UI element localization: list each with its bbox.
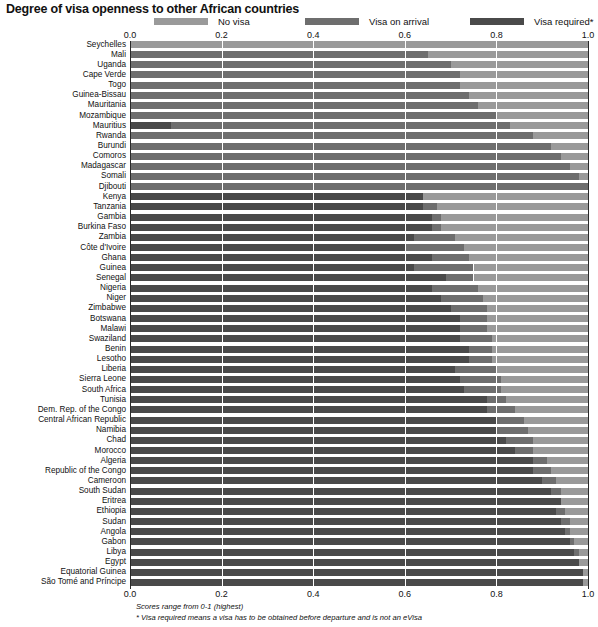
- bar-segment-no-visa: [464, 244, 588, 251]
- bar-segment-visa-required: [130, 559, 579, 566]
- bar-segment-visa-on-arrival: [533, 457, 547, 464]
- gridline-0.8: [496, 41, 497, 589]
- country-label: Togo: [0, 81, 126, 89]
- bar-segment-visa-on-arrival: [487, 406, 514, 413]
- bar-segment-visa-on-arrival: [551, 488, 560, 495]
- country-label: Malawi: [0, 325, 126, 333]
- x-axis-tick-0.6: 0.6: [399, 589, 412, 599]
- bar-segment-no-visa: [551, 467, 588, 474]
- bar-segment-no-visa: [524, 417, 588, 424]
- legend-label-visa-required: Visa required*: [534, 16, 594, 27]
- gridline-0.6: [405, 41, 406, 589]
- bar-segment-no-visa: [547, 457, 588, 464]
- bar-row: [130, 518, 588, 525]
- bar-segment-no-visa: [561, 153, 588, 160]
- bar-row: [130, 457, 588, 464]
- bar-segment-visa-required: [130, 285, 432, 292]
- bar-segment-no-visa: [533, 447, 588, 454]
- country-label: Chad: [0, 436, 126, 444]
- country-label: Republic of the Congo: [0, 467, 126, 475]
- bar-row: [130, 274, 588, 281]
- country-label: Gambia: [0, 213, 126, 221]
- bar-segment-visa-on-arrival: [460, 376, 501, 383]
- bar-row: [130, 305, 588, 312]
- bar-row: [130, 477, 588, 484]
- bar-segment-no-visa: [561, 488, 588, 495]
- country-label: Côte d'Ivoire: [0, 244, 126, 252]
- country-label: Mali: [0, 51, 126, 59]
- bar-row: [130, 173, 588, 180]
- bar-segment-no-visa: [501, 376, 588, 383]
- bar-segment-visa-required: [130, 264, 414, 271]
- bar-segment-visa-on-arrival: [414, 234, 455, 241]
- bar-segment-visa-on-arrival: [556, 508, 565, 515]
- bar-segment-visa-on-arrival: [130, 163, 570, 170]
- bar-row: [130, 447, 588, 454]
- country-label-column: SeychellesMaliUgandaCape VerdeTogoGuinea…: [0, 41, 126, 589]
- bar-segment-visa-required: [130, 386, 464, 393]
- bar-segment-no-visa: [487, 315, 588, 322]
- bar-segment-visa-required: [130, 315, 460, 322]
- bar-segment-no-visa: [478, 102, 588, 109]
- bar-segment-no-visa: [515, 406, 588, 413]
- bar-segment-visa-on-arrival: [441, 295, 482, 302]
- bar-row: [130, 376, 588, 383]
- bar-row: [130, 508, 588, 515]
- bar-segment-visa-on-arrival: [423, 203, 437, 210]
- gridline-0.2: [222, 41, 223, 589]
- bar-segment-no-visa: [579, 173, 588, 180]
- bar-segment-visa-on-arrival: [432, 285, 478, 292]
- x-axis-tick-0.6: 0.6: [399, 30, 412, 40]
- bar-segment-no-visa: [492, 335, 588, 342]
- bar-row: [130, 264, 588, 271]
- x-axis-tick-0.0: 0.0: [124, 30, 137, 40]
- country-label: Djibouti: [0, 183, 126, 191]
- country-label: São Tomé and Príncipe: [0, 578, 126, 586]
- bar-segment-visa-required: [130, 376, 460, 383]
- bar-segment-no-visa: [455, 234, 588, 241]
- bar-segment-visa-required: [130, 406, 487, 413]
- bar-segment-no-visa: [423, 193, 588, 200]
- bar-row: [130, 538, 588, 545]
- bar-row: [130, 122, 588, 129]
- bar-segment-visa-required: [130, 193, 423, 200]
- bar-segment-visa-on-arrival: [561, 518, 570, 525]
- bar-segment-visa-on-arrival: [405, 244, 465, 251]
- bar-row: [130, 71, 588, 78]
- bar-row: [130, 102, 588, 109]
- bar-segment-visa-required: [130, 366, 455, 373]
- bar-segment-no-visa: [510, 122, 588, 129]
- bar-segment-visa-on-arrival: [130, 61, 451, 68]
- x-axis-tick-0.2: 0.2: [215, 30, 228, 40]
- bar-row: [130, 51, 588, 58]
- country-label: Lesotho: [0, 355, 126, 363]
- bar-row: [130, 346, 588, 353]
- bar-segment-visa-required: [130, 569, 583, 576]
- country-label: Egypt: [0, 558, 126, 566]
- legend-swatch-visa-required: [470, 18, 524, 25]
- bar-row: [130, 417, 588, 424]
- bar-segment-no-visa: [483, 295, 588, 302]
- bar-row: [130, 193, 588, 200]
- bar-row: [130, 427, 588, 434]
- country-label: Liberia: [0, 365, 126, 373]
- bar-segment-visa-on-arrival: [432, 224, 441, 231]
- bar-segment-visa-required: [130, 447, 515, 454]
- bar-row: [130, 183, 588, 190]
- country-label: Guinea-Bissau: [0, 91, 126, 99]
- bar-segment-no-visa: [579, 549, 588, 556]
- bar-row: [130, 366, 588, 373]
- bar-row: [130, 559, 588, 566]
- bar-segment-no-visa: [441, 214, 588, 221]
- legend-swatch-no-visa: [154, 18, 208, 25]
- bar-segment-visa-on-arrival: [446, 274, 473, 281]
- country-label: Burkina Faso: [0, 223, 126, 231]
- visa-openness-chart: Degree of visa openness to other African…: [0, 0, 598, 627]
- x-axis-tick-0.8: 0.8: [490, 30, 503, 40]
- bar-row: [130, 396, 588, 403]
- x-axis-bottom: 0.00.20.40.60.81.0: [0, 589, 598, 601]
- bar-segment-visa-on-arrival: [542, 477, 556, 484]
- bar-segment-no-visa: [469, 254, 588, 261]
- bar-segment-visa-required: [130, 234, 414, 241]
- bar-segment-no-visa: [565, 508, 588, 515]
